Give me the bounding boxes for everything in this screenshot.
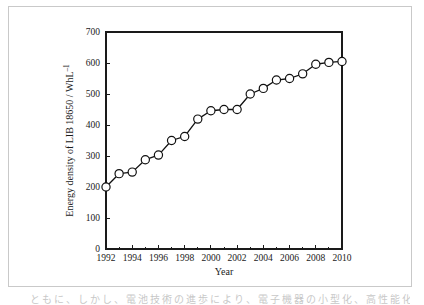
data-series (106, 61, 342, 187)
y-tick-label: 200 (86, 182, 101, 192)
series-line (106, 61, 342, 187)
x-tick-label: 2004 (254, 253, 273, 263)
data-point (167, 136, 175, 144)
data-point (272, 76, 280, 84)
data-point (194, 115, 202, 123)
y-tick-label: 100 (86, 213, 101, 223)
y-tick-label: 0 (95, 244, 100, 254)
x-tick-label: 2006 (280, 253, 299, 263)
x-tick-label: 2008 (306, 253, 325, 263)
data-point (128, 168, 136, 176)
y-tick-label: 300 (86, 151, 101, 161)
x-tick-label: 1998 (175, 253, 194, 263)
data-point (220, 105, 228, 113)
y-axis-title-exponent: –1 (63, 64, 71, 73)
data-point (285, 74, 293, 82)
data-point (299, 70, 307, 78)
data-point (141, 156, 149, 164)
data-point (246, 90, 254, 98)
y-axis-title-rotated: Energy density of LIB 18650 / WhL–1 (63, 64, 75, 217)
x-axis-tick-labels: 1992199419961998200020022004200620082010 (97, 253, 352, 263)
y-axis-ticks (106, 32, 110, 249)
page-bleed-text: ともに、しかし、電池技術の進歩により、電子機器の小型化、高性能化 (30, 291, 410, 305)
data-point (325, 58, 333, 66)
data-markers (102, 57, 346, 191)
y-tick-label: 700 (86, 27, 101, 37)
y-axis-title-text: Energy density of LIB 18650 / WhL–1 (63, 64, 75, 217)
y-axis-tick-labels: 0100200300400500600700 (86, 27, 101, 254)
y-axis-title-main: Energy density of LIB 18650 / WhL (64, 72, 75, 217)
data-point (338, 57, 346, 65)
axes-group (106, 32, 342, 249)
x-tick-label: 2010 (333, 253, 352, 263)
data-point (233, 105, 241, 113)
y-axis-title: Energy density of LIB 18650 / WhL–1 (63, 64, 75, 217)
x-tick-label: 1992 (97, 253, 116, 263)
data-point (207, 107, 215, 115)
y-tick-label: 500 (86, 89, 101, 99)
data-point (181, 132, 189, 140)
data-point (154, 151, 162, 159)
y-tick-label: 400 (86, 120, 101, 130)
x-axis-ticks (106, 245, 342, 249)
x-tick-label: 2000 (201, 253, 220, 263)
y-tick-label: 600 (86, 58, 101, 68)
data-point (312, 60, 320, 68)
plot-frame (106, 32, 342, 249)
data-point (259, 84, 267, 92)
data-point (102, 183, 110, 191)
data-point (115, 170, 123, 178)
x-axis-title: Year (215, 266, 234, 277)
x-tick-label: 1994 (123, 253, 142, 263)
x-tick-label: 2002 (228, 253, 247, 263)
x-tick-label: 1996 (149, 253, 168, 263)
